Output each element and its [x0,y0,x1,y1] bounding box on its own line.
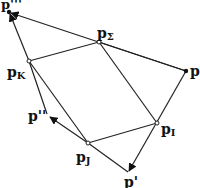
node-pj [86,141,90,145]
label-pj: pJ [76,149,91,166]
label-p-double-prime: p'' [28,108,46,124]
edge-psigma-to-pi [99,42,157,123]
diagram-canvas: p''' pΣ p pK p'' pJ pI p' [0,0,200,188]
edge-pk-to-p-triple-prime [10,14,29,61]
label-pi: pI [161,121,176,138]
edge-pk-to-psigma [29,42,99,61]
label-pk: pK [7,64,26,81]
edge-pj-to-p-double-prime [50,117,88,143]
edge-pk-to-p-double-prime [29,61,47,114]
node-pi [155,121,159,125]
label-p-triple-prime: p''' [1,0,22,12]
edge-pk-to-pj [29,61,88,143]
node-pk [27,59,31,63]
label-psigma: pΣ [97,25,114,42]
edge-psigma-to-p [99,42,186,71]
node-p [184,69,188,73]
label-p: p [190,63,200,79]
label-p-prime: p' [124,174,138,188]
edge-pj-to-p-prime [88,143,128,172]
